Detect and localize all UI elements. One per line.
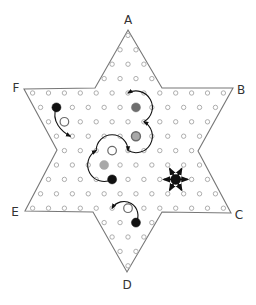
hole <box>78 91 82 95</box>
hole <box>30 206 34 210</box>
hole <box>158 91 162 95</box>
jumped-ring-bottom <box>124 204 133 213</box>
hole <box>158 206 162 210</box>
hole <box>38 192 42 196</box>
hole <box>174 120 178 124</box>
hole <box>126 62 130 66</box>
corner-label-d: D <box>122 278 131 292</box>
hole <box>30 91 34 95</box>
hole <box>78 120 82 124</box>
jumped-ring-left <box>60 118 69 127</box>
hole <box>142 62 146 66</box>
hole <box>189 120 193 124</box>
hole <box>221 91 225 95</box>
hole <box>62 91 66 95</box>
hole <box>150 76 154 80</box>
hole <box>158 120 162 124</box>
hole <box>142 235 146 239</box>
hole <box>197 192 201 196</box>
hole <box>134 192 138 196</box>
hole <box>62 206 66 210</box>
hole <box>46 91 50 95</box>
hole <box>102 220 106 224</box>
hole <box>134 76 138 80</box>
hole <box>70 105 74 109</box>
hole <box>142 177 146 181</box>
hole <box>174 206 178 210</box>
hole <box>205 177 209 181</box>
hole <box>78 177 82 181</box>
hole <box>70 163 74 167</box>
hole <box>213 192 217 196</box>
corner-label-a: A <box>124 13 133 27</box>
hole <box>166 134 170 138</box>
hole <box>118 220 122 224</box>
hole <box>46 177 50 181</box>
hole <box>118 76 122 80</box>
hole <box>126 235 130 239</box>
hole <box>197 105 201 109</box>
hole <box>174 91 178 95</box>
hole <box>46 206 50 210</box>
black-piece-center <box>108 175 117 184</box>
hole <box>166 105 170 109</box>
hole <box>126 177 130 181</box>
hole <box>110 120 114 124</box>
hole <box>86 134 90 138</box>
hole <box>150 220 154 224</box>
corner-label-b: B <box>237 83 245 97</box>
hole <box>158 148 162 152</box>
hole <box>213 105 217 109</box>
hole <box>189 177 193 181</box>
hole <box>181 105 185 109</box>
hole <box>197 134 201 138</box>
hole <box>78 148 82 152</box>
hole <box>118 192 122 196</box>
hole <box>205 91 209 95</box>
hole <box>70 192 74 196</box>
hole <box>62 177 66 181</box>
hole <box>110 62 114 66</box>
hole <box>166 163 170 167</box>
hole <box>110 235 114 239</box>
hole <box>126 264 130 268</box>
hole <box>150 163 154 167</box>
hole <box>86 192 90 196</box>
hole <box>70 134 74 138</box>
hole <box>205 206 209 210</box>
hole <box>158 177 162 181</box>
hole <box>181 163 185 167</box>
corner-label-c: C <box>235 208 243 222</box>
gray-piece-mid <box>131 132 140 141</box>
hole <box>189 91 193 95</box>
hole <box>54 192 58 196</box>
hole <box>46 120 50 124</box>
hole <box>142 206 146 210</box>
chinese-checkers-board: A B C D E F <box>0 0 256 305</box>
hole <box>118 249 122 253</box>
hole <box>62 148 66 152</box>
hole <box>126 33 130 37</box>
jumped-ring-center <box>108 146 117 155</box>
hole <box>150 192 154 196</box>
hole <box>110 91 114 95</box>
hole <box>181 134 185 138</box>
gray-piece-lower <box>100 161 109 170</box>
black-piece-left <box>52 103 61 112</box>
hole <box>94 206 98 210</box>
hole <box>94 120 98 124</box>
hole <box>118 163 122 167</box>
hole <box>118 105 122 109</box>
hole <box>118 48 122 52</box>
hole <box>205 120 209 124</box>
hole <box>189 206 193 210</box>
hole <box>102 192 106 196</box>
black-piece-bottom <box>131 218 140 227</box>
corner-label-e: E <box>11 205 19 219</box>
hole <box>54 163 58 167</box>
hole <box>102 105 106 109</box>
hole <box>54 134 58 138</box>
dark-gray-piece <box>131 103 140 112</box>
black-piece-star <box>171 174 181 184</box>
hole <box>134 163 138 167</box>
